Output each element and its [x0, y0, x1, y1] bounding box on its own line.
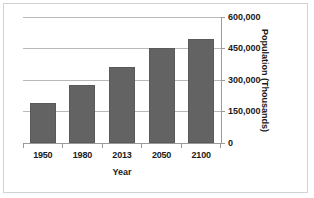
y-label-0: 0 [228, 138, 233, 148]
x-label-2100: 2100 [182, 150, 220, 160]
x-axis-ticks [23, 144, 221, 148]
x-tick [62, 144, 63, 148]
x-tick [141, 144, 142, 148]
x-tick [181, 144, 182, 148]
bar-2013 [109, 67, 135, 143]
chart-frame: 1950 1980 2013 2050 2100 Year 600,000 45… [3, 3, 308, 193]
x-label-1950: 1950 [24, 150, 62, 160]
y-tick [221, 17, 225, 18]
x-label-2013: 2013 [103, 150, 141, 160]
x-axis-labels: 1950 1980 2013 2050 2100 [23, 150, 221, 160]
y-label-150000: 150,000 [228, 106, 261, 116]
x-tick [23, 144, 24, 148]
x-label-2050: 2050 [143, 150, 181, 160]
y-label-600000: 600,000 [228, 12, 261, 22]
x-label-1980: 1980 [63, 150, 101, 160]
bar-1950 [30, 103, 56, 143]
bar-1980 [69, 85, 95, 143]
plot-area [23, 17, 221, 144]
bar-2100 [188, 39, 214, 143]
bar-2050 [149, 48, 175, 143]
y-label-300000: 300,000 [228, 75, 261, 85]
x-tick [102, 144, 103, 148]
y-tick [221, 80, 225, 81]
y-tick [221, 111, 225, 112]
y-label-450000: 450,000 [228, 43, 261, 53]
y-axis-title: Population (Thousands) [258, 17, 272, 144]
bar-series [23, 17, 221, 143]
x-tick [220, 144, 221, 148]
x-axis-title: Year [23, 167, 221, 177]
y-tick [221, 48, 225, 49]
y-tick [221, 143, 225, 144]
